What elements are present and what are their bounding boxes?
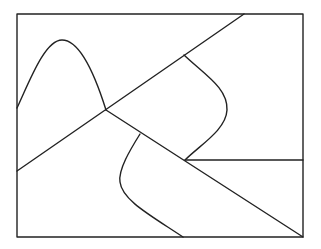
bell-curve (17, 40, 106, 110)
upper-s-curve (184, 55, 227, 160)
line-diagram (0, 0, 321, 249)
diagonal-line-up (17, 14, 244, 171)
lower-s-curve (120, 134, 183, 237)
diagonal-line-down (106, 110, 303, 237)
frame-rect (17, 14, 303, 237)
diagram-paths (17, 14, 303, 237)
